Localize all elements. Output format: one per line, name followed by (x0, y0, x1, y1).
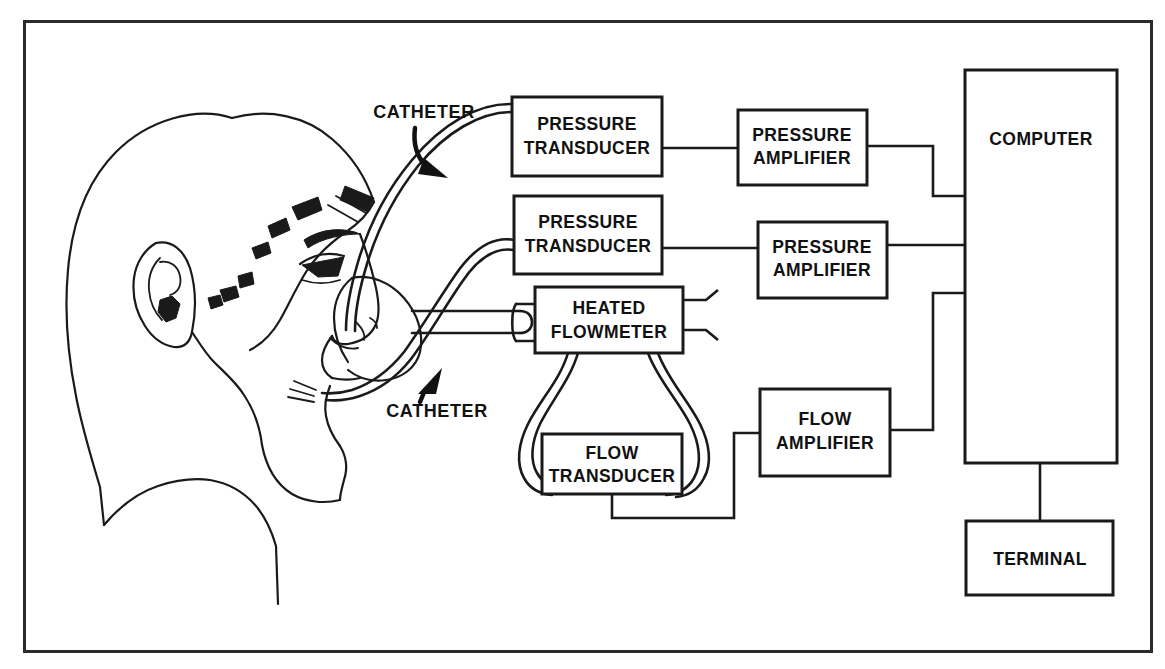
block-pressure-amplifier-1[interactable]: PRESSURE AMPLIFIER (738, 110, 867, 185)
block-label-line2: AMPLIFIER (773, 260, 871, 280)
block-flow-amplifier[interactable]: FLOW AMPLIFIER (760, 389, 890, 476)
block-label-line1: PRESSURE (772, 237, 871, 257)
block-label-line1: TERMINAL (993, 549, 1087, 569)
block-terminal[interactable]: TERMINAL (966, 521, 1113, 595)
callout-label: CATHETER (386, 401, 487, 421)
instrumentation-block-diagram: PRESSURE TRANSDUCER PRESSURE TRANSDUCER … (0, 0, 1165, 669)
block-label-line1: PRESSURE (537, 114, 636, 134)
block-label-line2: FLOWMETER (551, 322, 667, 342)
block-heated-flowmeter[interactable]: HEATED FLOWMETER (535, 287, 683, 353)
block-label-line2: TRANSDUCER (525, 236, 652, 256)
block-pressure-amplifier-2[interactable]: PRESSURE AMPLIFIER (758, 222, 887, 298)
diagram-root: PRESSURE TRANSDUCER PRESSURE TRANSDUCER … (0, 0, 1165, 669)
block-label-line2: TRANSDUCER (549, 466, 676, 486)
block-label-line2: AMPLIFIER (776, 433, 874, 453)
block-label-line1: FLOW (585, 443, 638, 463)
block-label-line1: HEATED (572, 298, 645, 318)
block-pressure-transducer-1[interactable]: PRESSURE TRANSDUCER (512, 97, 662, 176)
block-label-line1: PRESSURE (752, 125, 851, 145)
block-label-line1: FLOW (798, 409, 851, 429)
block-label-line1: COMPUTER (989, 129, 1092, 149)
block-flow-transducer[interactable]: FLOW TRANSDUCER (542, 434, 682, 494)
block-label-line2: TRANSDUCER (524, 138, 651, 158)
callout-label: CATHETER (373, 102, 474, 122)
block-label-line1: PRESSURE (538, 212, 637, 232)
block-pressure-transducer-2[interactable]: PRESSURE TRANSDUCER (514, 196, 662, 274)
block-label-line2: AMPLIFIER (753, 148, 851, 168)
block-computer[interactable]: COMPUTER (965, 70, 1117, 463)
